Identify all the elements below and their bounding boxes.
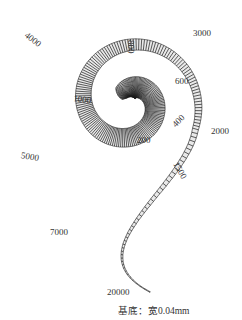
freq-label-800: 800	[126, 40, 136, 54]
freq-label-2000: 2000	[211, 126, 229, 136]
freq-label-20000: 20000	[107, 287, 130, 297]
freq-label-200: 200	[137, 135, 151, 145]
freq-label-3000: 3000	[193, 28, 211, 38]
caption-base-width: 基底：宽0.04mm	[118, 303, 189, 317]
freq-label-600: 600	[175, 76, 189, 86]
freq-label-7000: 7000	[50, 227, 68, 237]
cochlea-diagram: 4000 800 3000 600 1000 400 2000 200 5000…	[0, 0, 242, 320]
